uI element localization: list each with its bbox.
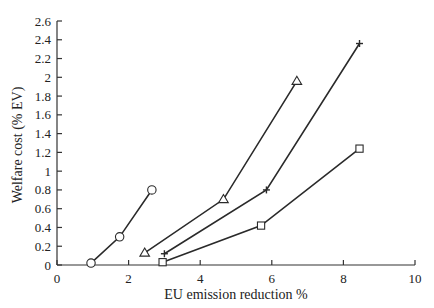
x-axis: 0246810	[54, 260, 422, 286]
series-triangle	[140, 76, 302, 256]
x-tick-label: 0	[54, 271, 61, 286]
y-tick-label: 2	[45, 70, 52, 85]
y-tick-label: 1	[45, 164, 52, 179]
y-axis: 00.20.40.60.811.21.41.61.822.22.42.6	[35, 14, 62, 273]
x-axis-title: EU emission reduction %	[164, 287, 308, 302]
y-tick-label: 2.6	[35, 14, 52, 29]
circle-marker-icon	[148, 186, 156, 194]
welfare-cost-chart: 00.20.40.60.811.21.41.61.822.22.42.6 024…	[0, 0, 434, 308]
y-axis-title: Welfare cost (% EV)	[10, 86, 26, 203]
x-tick-label: 10	[409, 271, 422, 286]
series-line	[163, 149, 360, 263]
series-square	[159, 145, 363, 266]
triangle-marker-icon	[292, 76, 302, 84]
y-tick-label: 1.4	[35, 126, 52, 141]
x-tick-label: 4	[197, 271, 204, 286]
x-tick-label: 6	[269, 271, 276, 286]
series-group	[87, 40, 363, 267]
y-tick-label: 2.2	[35, 51, 51, 66]
y-tick-label: 1.6	[35, 107, 52, 122]
y-tick-label: 0.2	[35, 239, 51, 254]
square-marker-icon	[257, 222, 264, 229]
triangle-marker-icon	[140, 248, 150, 256]
y-tick-label: 0.4	[35, 220, 52, 235]
y-tick-label: 0	[45, 258, 52, 273]
square-marker-icon	[356, 145, 363, 152]
triangle-marker-icon	[219, 195, 229, 203]
y-tick-label: 1.8	[35, 89, 51, 104]
series-line	[145, 81, 297, 253]
y-tick-label: 1.2	[35, 145, 51, 160]
y-tick-label: 0.8	[35, 182, 51, 197]
circle-marker-icon	[115, 233, 123, 241]
x-tick-label: 2	[125, 271, 132, 286]
y-tick-label: 2.4	[35, 32, 52, 47]
square-marker-icon	[159, 259, 166, 266]
circle-marker-icon	[87, 259, 95, 267]
y-tick-label: 0.6	[35, 201, 52, 216]
x-tick-label: 8	[340, 271, 347, 286]
